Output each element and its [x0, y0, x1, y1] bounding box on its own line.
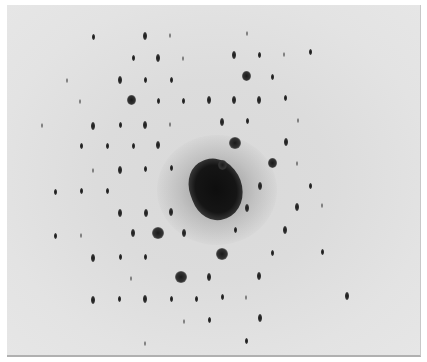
diffraction-spot: [80, 233, 82, 238]
diffraction-spot: [169, 33, 171, 38]
diffraction-spot: [156, 141, 160, 149]
diffraction-spot: [170, 296, 173, 302]
diffraction-spot: [295, 203, 299, 211]
diffraction-spot: [321, 249, 324, 255]
diffraction-spot: [144, 341, 146, 346]
diffraction-spot: [182, 98, 185, 104]
diffraction-spot: [309, 183, 312, 189]
diffraction-spot: [91, 296, 95, 304]
diffraction-spot: [245, 338, 248, 344]
diffraction-spot: [271, 74, 274, 80]
diffraction-spot: [345, 292, 349, 300]
diffraction-spot: [41, 123, 43, 128]
diffraction-spot: [218, 160, 227, 170]
diffraction-spot: [92, 34, 95, 40]
diffraction-spot: [119, 254, 122, 260]
diffraction-spot: [132, 143, 135, 149]
diffraction-spot: [283, 52, 285, 57]
diffraction-spot: [208, 317, 211, 323]
diffraction-spot: [245, 204, 249, 212]
diffraction-spot: [156, 54, 160, 62]
diffraction-spot: [220, 118, 224, 126]
diffraction-spot: [258, 52, 261, 58]
diffraction-plate: [7, 5, 421, 357]
diffraction-spot: [284, 138, 288, 146]
diffraction-spot: [183, 319, 185, 324]
diffraction-spot: [257, 272, 261, 280]
diffraction-spot: [234, 227, 237, 233]
diffraction-spot: [170, 165, 173, 171]
diffraction-spot: [182, 56, 184, 61]
diffraction-spot: [92, 168, 94, 173]
diffraction-spot: [79, 99, 81, 104]
diffraction-spot: [143, 121, 147, 129]
diffraction-spot: [232, 96, 236, 104]
diffraction-spot: [268, 158, 277, 168]
diffraction-spot: [127, 95, 136, 105]
diffraction-spot: [195, 296, 198, 302]
diffraction-spot: [309, 49, 312, 55]
diffraction-spot: [258, 182, 262, 190]
diffraction-spot: [232, 51, 236, 59]
diffraction-spot: [246, 118, 249, 124]
diffraction-spot: [257, 96, 261, 104]
diffraction-spot: [245, 295, 247, 300]
diffraction-spot: [132, 55, 135, 61]
diffraction-spot: [284, 95, 287, 101]
diffraction-spot: [182, 229, 186, 237]
diffraction-spot: [169, 122, 171, 127]
diffraction-spot: [118, 209, 122, 217]
diffraction-spot: [144, 77, 147, 83]
diffraction-spot: [216, 248, 228, 260]
diffraction-spot: [80, 143, 83, 149]
diffraction-spot: [80, 188, 83, 194]
diffraction-spot: [118, 76, 122, 84]
diffraction-spot: [321, 203, 323, 208]
diffraction-spot: [118, 166, 122, 174]
diffraction-spot: [246, 31, 248, 36]
diffraction-spot: [144, 166, 147, 172]
diffraction-spot: [170, 77, 173, 83]
diffraction-spot: [66, 78, 68, 83]
diffraction-spot: [106, 143, 109, 149]
diffraction-spot: [229, 137, 241, 149]
diffraction-spot: [152, 227, 164, 239]
diffraction-spot: [242, 71, 251, 81]
diffraction-spot: [144, 254, 147, 260]
diffraction-spot: [175, 271, 187, 283]
diffraction-spot: [271, 250, 274, 256]
diffraction-spot: [106, 188, 109, 194]
diffraction-spot: [119, 122, 122, 128]
diffraction-spot: [283, 226, 287, 234]
diffraction-spot: [296, 161, 298, 166]
diffraction-spot: [143, 32, 147, 40]
diffraction-spot: [157, 98, 160, 104]
diffraction-spot: [54, 189, 57, 195]
diffraction-spot: [207, 96, 211, 104]
diffraction-spot: [221, 294, 224, 300]
diffraction-spot: [143, 295, 147, 303]
diffraction-spot: [131, 229, 135, 237]
diffraction-spot: [144, 209, 148, 217]
diffraction-spot: [258, 314, 262, 322]
diffraction-spot: [130, 276, 132, 281]
diffraction-spot: [207, 273, 211, 281]
diffraction-spot: [169, 208, 173, 216]
diffraction-spot: [91, 122, 95, 130]
diffraction-spot: [91, 254, 95, 262]
diffraction-spot: [297, 118, 299, 123]
diffraction-spot: [54, 233, 57, 239]
diffraction-spot: [118, 296, 121, 302]
